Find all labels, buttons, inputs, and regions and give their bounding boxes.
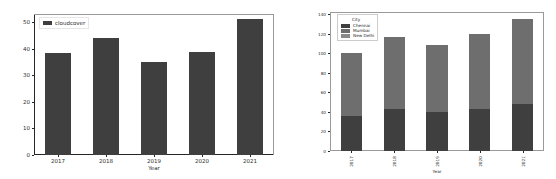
- y-tick-mark: [328, 73, 330, 74]
- bar: [384, 37, 405, 151]
- y-tick-mark: [32, 49, 34, 50]
- right-y-axis-spine: [330, 12, 331, 151]
- legend-swatch-icon: [341, 24, 350, 28]
- y-tick-mark: [328, 131, 330, 132]
- y-tick-label: 0: [296, 149, 326, 154]
- x-tick-label: 2017: [51, 158, 65, 164]
- bar-segment-mumbai: [512, 19, 533, 104]
- bar: [45, 53, 71, 155]
- y-tick-label: 20: [0, 99, 30, 105]
- right-top-spine: [330, 12, 544, 13]
- y-tick-label: 40: [296, 109, 326, 114]
- right-x-axis-title: Year: [433, 169, 442, 174]
- left-y-axis-spine: [34, 14, 35, 155]
- x-tick-mark: [154, 155, 155, 157]
- y-tick-label: 30: [0, 72, 30, 78]
- bar: [93, 38, 119, 155]
- y-tick-mark: [328, 151, 330, 152]
- x-tick-mark: [523, 151, 524, 153]
- x-tick-mark: [437, 151, 438, 153]
- bar-segment-mumbai: [341, 53, 362, 116]
- bar-segment-chennai: [341, 116, 362, 151]
- bar: [341, 53, 362, 151]
- y-tick-label: 40: [0, 46, 30, 52]
- x-tick-mark: [394, 151, 395, 153]
- city-legend: City ChennaiMumbaiNew Delhi: [337, 14, 378, 41]
- y-tick-mark: [32, 155, 34, 156]
- y-tick-mark: [32, 102, 34, 103]
- y-tick-mark: [32, 22, 34, 23]
- bar-segment-mumbai: [426, 45, 447, 112]
- x-tick-label: 2020: [195, 158, 209, 164]
- bar-segment-mumbai: [384, 37, 405, 108]
- x-tick-label: 2018: [99, 158, 113, 164]
- left-top-spine: [34, 14, 274, 15]
- y-tick-mark: [328, 112, 330, 113]
- legend-swatch-icon: [43, 21, 52, 25]
- bar-segment-chennai: [512, 104, 533, 151]
- dual-chart-screenshot: 01020304050 20172018201920202021 Year cl…: [0, 0, 556, 179]
- legend-swatch-icon: [341, 29, 350, 33]
- bar-segment-chennai: [384, 109, 405, 151]
- y-tick-label: 60: [296, 90, 326, 95]
- city-stacked-figure: 020406080100120140 20172018201920202021 …: [296, 0, 556, 179]
- bar: [189, 52, 215, 155]
- bar: [426, 45, 447, 151]
- cloudcover-legend: cloudcover: [39, 17, 89, 29]
- left-x-axis-title: Year: [148, 165, 160, 171]
- y-tick-label: 80: [296, 70, 326, 75]
- cloudcover-figure: 01020304050 20172018201920202021 Year cl…: [0, 0, 296, 179]
- x-tick-label: 2019: [147, 158, 161, 164]
- bar-segment-chennai: [426, 112, 447, 151]
- legend-entry: New Delhi: [341, 33, 374, 38]
- x-tick-label: 2021: [243, 158, 257, 164]
- x-tick-label: 2020: [477, 156, 482, 167]
- y-tick-label: 50: [0, 19, 30, 25]
- y-tick-label: 0: [0, 152, 30, 158]
- x-tick-mark: [351, 151, 352, 153]
- y-tick-mark: [328, 34, 330, 35]
- bar: [237, 19, 263, 155]
- y-tick-mark: [32, 128, 34, 129]
- bar: [512, 19, 533, 151]
- y-tick-mark: [32, 75, 34, 76]
- y-tick-label: 140: [296, 11, 326, 16]
- x-tick-mark: [106, 155, 107, 157]
- y-tick-mark: [328, 53, 330, 54]
- legend-entry: cloudcover: [43, 20, 85, 26]
- y-tick-label: 20: [296, 129, 326, 134]
- bar: [469, 34, 490, 151]
- left-right-spine: [273, 14, 274, 155]
- x-tick-label: 2017: [349, 156, 354, 167]
- y-tick-label: 120: [296, 31, 326, 36]
- x-tick-label: 2021: [520, 156, 525, 167]
- x-tick-label: 2018: [392, 156, 397, 167]
- bar-segment-mumbai: [469, 34, 490, 109]
- legend-entry-label: New Delhi: [353, 33, 374, 38]
- legend-title: City: [352, 17, 374, 22]
- y-tick-label: 10: [0, 125, 30, 131]
- legend-swatch-icon: [341, 34, 350, 38]
- legend-entry-label: cloudcover: [55, 20, 85, 26]
- x-tick-mark: [250, 155, 251, 157]
- y-tick-mark: [328, 92, 330, 93]
- y-tick-mark: [328, 14, 330, 15]
- bar: [141, 62, 167, 155]
- bar-segment-chennai: [469, 109, 490, 151]
- x-tick-label: 2019: [435, 156, 440, 167]
- right-right-spine: [543, 12, 544, 151]
- x-tick-mark: [202, 155, 203, 157]
- x-tick-mark: [480, 151, 481, 153]
- y-tick-label: 100: [296, 51, 326, 56]
- x-tick-mark: [58, 155, 59, 157]
